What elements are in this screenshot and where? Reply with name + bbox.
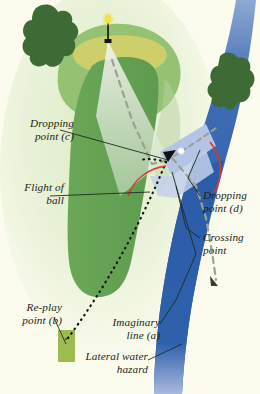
label-line: Imaginary xyxy=(92,316,160,329)
label-line: point (d) xyxy=(203,202,247,215)
label-line: Lateral water xyxy=(58,350,148,363)
flag-glow xyxy=(102,12,113,25)
label-line: Dropping xyxy=(2,117,74,130)
label-line: hazard xyxy=(58,363,148,376)
label-line: point (b) xyxy=(2,314,62,327)
label-re-play-point-b: Re-play point (b) xyxy=(2,301,62,326)
ball-marker xyxy=(178,148,184,154)
label-line: Dropping xyxy=(203,189,247,202)
hole-marker xyxy=(105,39,112,43)
label-imaginary-line-a: Imaginary line (a) xyxy=(92,316,160,341)
label-dropping-point-c: Dropping point (c) xyxy=(2,117,74,142)
label-line: point (c) xyxy=(2,130,74,143)
label-line: ball xyxy=(2,194,64,207)
label-flight-of-ball: Flight of ball xyxy=(2,181,64,206)
label-line: Flight of xyxy=(2,181,64,194)
golf-hazard-diagram: Dropping point (c) Flight of ball Re-pla… xyxy=(0,0,260,394)
label-lateral-water-hazard: Lateral water hazard xyxy=(58,350,148,375)
label-line: Crossing xyxy=(203,231,244,244)
label-crossing-point: Crossing point xyxy=(203,231,244,256)
label-line: Re-play xyxy=(2,301,62,314)
tee-marker-dot xyxy=(65,338,67,340)
label-line: point xyxy=(203,244,244,257)
label-dropping-point-d: Dropping point (d) xyxy=(203,189,247,214)
label-line: line (a) xyxy=(92,329,160,342)
